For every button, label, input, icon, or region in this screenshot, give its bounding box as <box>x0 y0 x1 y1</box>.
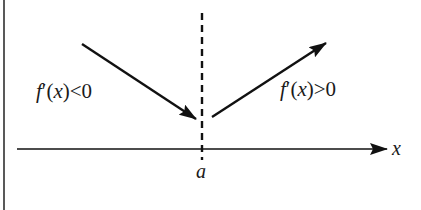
label-relation: <0 <box>70 79 92 103</box>
diagram-canvas: x a f′(x)<0 f′(x)>0 <box>0 0 421 210</box>
negative-derivative-label: f′(x)<0 <box>36 79 92 103</box>
label-relation: >0 <box>314 77 336 101</box>
positive-derivative-label: f′(x)>0 <box>280 77 336 101</box>
label-paren-close: ) <box>307 77 314 101</box>
decreasing-arrow <box>82 44 196 119</box>
x-axis-label: x <box>391 137 401 159</box>
label-paren-close: ) <box>63 79 70 103</box>
label-paren-open: ( <box>290 77 297 101</box>
point-a-label: a <box>196 160 206 182</box>
label-paren-open: ( <box>46 79 53 103</box>
